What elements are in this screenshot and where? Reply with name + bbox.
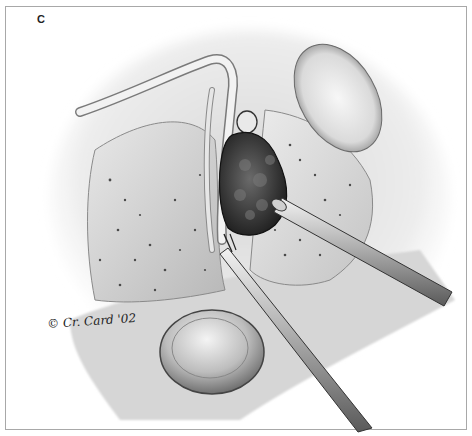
panel-label: C xyxy=(37,13,45,25)
surgical-illustration xyxy=(0,0,472,436)
